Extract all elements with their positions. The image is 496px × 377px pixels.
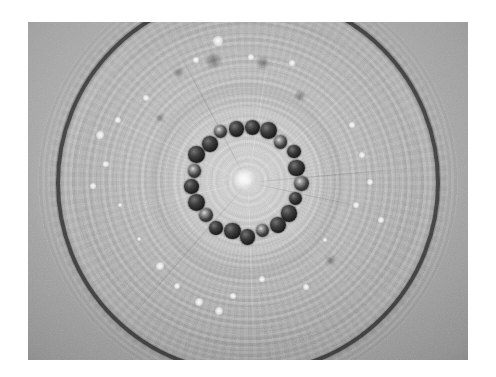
- dark-speck: [156, 114, 164, 122]
- white-speck: [215, 307, 223, 315]
- white-speck: [303, 284, 308, 289]
- bead: [199, 208, 213, 222]
- dark-speck: [174, 68, 183, 77]
- white-speck: [156, 262, 164, 270]
- dark-speck: [206, 53, 221, 68]
- white-speck: [289, 60, 294, 65]
- white-speck: [103, 161, 108, 166]
- white-speck: [359, 152, 364, 157]
- white-speck: [230, 293, 236, 299]
- bead: [202, 136, 218, 152]
- dark-speck: [295, 91, 305, 101]
- white-speck: [193, 57, 198, 62]
- white-speck: [213, 36, 222, 45]
- center-bright-core: [233, 169, 255, 189]
- image-canvas: circular specimen disc with concentric r…: [0, 0, 496, 377]
- bead: [224, 223, 241, 240]
- bead: [188, 164, 201, 177]
- white-speck: [353, 202, 358, 207]
- dark-speck: [326, 256, 335, 265]
- white-speck: [378, 217, 384, 223]
- bead: [240, 229, 255, 244]
- bead: [294, 176, 309, 191]
- white-speck: [259, 276, 264, 281]
- bead: [287, 145, 301, 159]
- white-speck: [90, 183, 95, 188]
- dark-speck: [257, 57, 269, 69]
- bead: [214, 125, 227, 138]
- photograph-plate: [28, 22, 468, 360]
- white-speck: [248, 54, 254, 60]
- white-speck: [96, 131, 103, 138]
- bead: [288, 160, 305, 177]
- bead: [188, 194, 205, 211]
- bead: [245, 120, 260, 135]
- bead: [274, 135, 288, 149]
- bead: [209, 221, 223, 235]
- bead: [184, 179, 199, 194]
